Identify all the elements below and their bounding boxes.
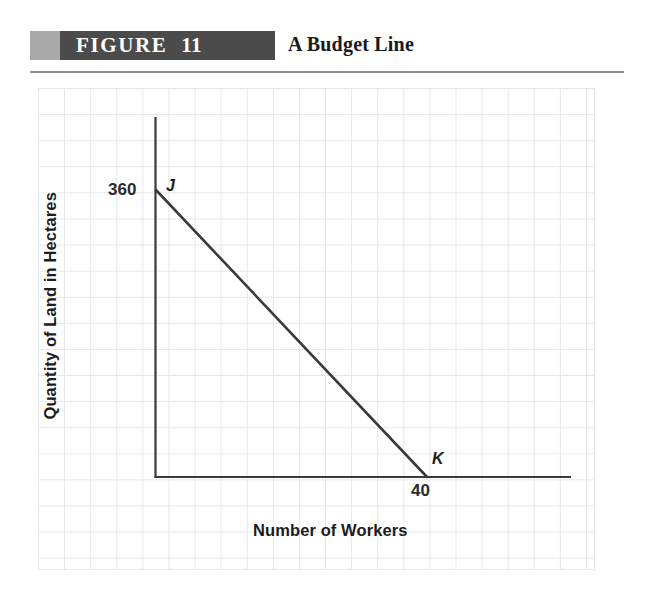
point-label-k: K xyxy=(432,450,444,468)
y-axis-title: Quantity of Land in Hectares xyxy=(41,200,60,420)
point-label-j: J xyxy=(166,177,175,195)
x-axis-title: Number of Workers xyxy=(253,521,408,540)
budget-line-chart xyxy=(0,0,654,602)
budget-line-series xyxy=(156,190,427,477)
y-axis-tick-360: 360 xyxy=(108,180,136,200)
x-axis-tick-40: 40 xyxy=(411,481,430,501)
